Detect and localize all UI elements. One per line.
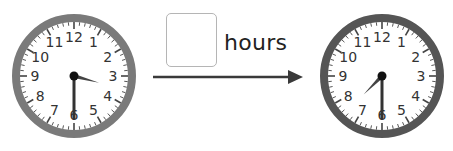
clock-number: 12 (373, 29, 391, 45)
clock-center (70, 72, 79, 81)
clock-number: 10 (339, 49, 357, 65)
clock-number: 7 (50, 102, 59, 118)
clock-number: 9 (339, 68, 348, 84)
clock-number: 4 (411, 88, 420, 104)
clock-number: 11 (46, 34, 64, 50)
clock-number: 8 (36, 88, 45, 104)
clock-number: 5 (89, 102, 98, 118)
clock-number: 2 (411, 49, 420, 65)
hours-label: hours (224, 30, 287, 55)
end-clock: 121234567891011 (308, 0, 453, 151)
clock-number: 1 (397, 34, 406, 50)
clock-number: 4 (103, 88, 112, 104)
clock-number: 11 (354, 34, 372, 50)
clock-number: 12 (65, 29, 83, 45)
clock-number: 5 (397, 102, 406, 118)
clock-number: 8 (344, 88, 353, 104)
clock-number: 1 (89, 34, 98, 50)
clock-number: 10 (31, 49, 49, 65)
answer-box[interactable] (166, 13, 217, 67)
clock-center (378, 72, 387, 81)
arrow-right-icon (150, 66, 310, 88)
clock-number: 7 (358, 102, 367, 118)
start-clock: 121234567891011 (0, 0, 148, 151)
clock-number: 3 (417, 68, 426, 84)
clock-number: 3 (109, 68, 118, 84)
clock-number: 2 (103, 49, 112, 65)
clock-number: 9 (31, 68, 40, 84)
